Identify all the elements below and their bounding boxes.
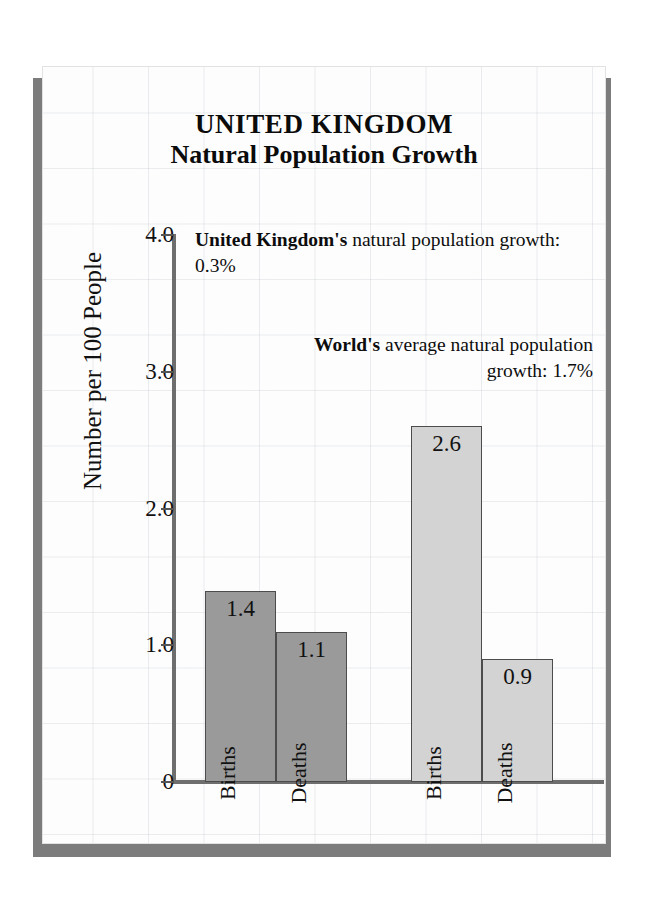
annotation-country-lead: United Kingdom's xyxy=(195,229,347,250)
annotation-world-rest: average natural population growth: 1.7% xyxy=(380,334,593,381)
y-tick-mark xyxy=(161,644,174,646)
bar-category-label: Deaths xyxy=(286,742,312,803)
bar-category-label: Births xyxy=(215,746,241,800)
chart-card: UNITED KINGDOM Natural Population Growth… xyxy=(42,66,606,844)
bar-category-label: Births xyxy=(421,746,447,800)
y-axis-title: Number per 100 People xyxy=(79,171,107,571)
bar-value-label: 0.9 xyxy=(483,664,552,690)
annotation-world: World's average natural population growt… xyxy=(273,332,593,384)
annotation-world-lead: World's xyxy=(314,334,380,355)
bar-world-births: 2.6Births xyxy=(411,426,482,782)
bar-category-label: Deaths xyxy=(492,742,518,803)
bar-world-deaths: 0.9Deaths xyxy=(482,659,553,782)
plot-area: 01.02.03.04.0 Number per 100 People Unit… xyxy=(43,67,605,843)
y-tick-mark xyxy=(161,508,174,510)
y-tick-mark xyxy=(161,371,174,373)
bar-united-kingdom-deaths: 1.1Deaths xyxy=(276,632,347,782)
y-tick-mark xyxy=(161,781,174,783)
y-tick-mark xyxy=(161,234,174,236)
bar-value-label: 2.6 xyxy=(412,431,481,457)
bar-value-label: 1.1 xyxy=(277,637,346,663)
bar-united-kingdom-births: 1.4Births xyxy=(205,591,276,782)
bar-value-label: 1.4 xyxy=(206,596,275,622)
chart-page: UNITED KINGDOM Natural Population Growth… xyxy=(0,0,645,915)
annotation-country: United Kingdom's natural population grow… xyxy=(195,227,605,279)
